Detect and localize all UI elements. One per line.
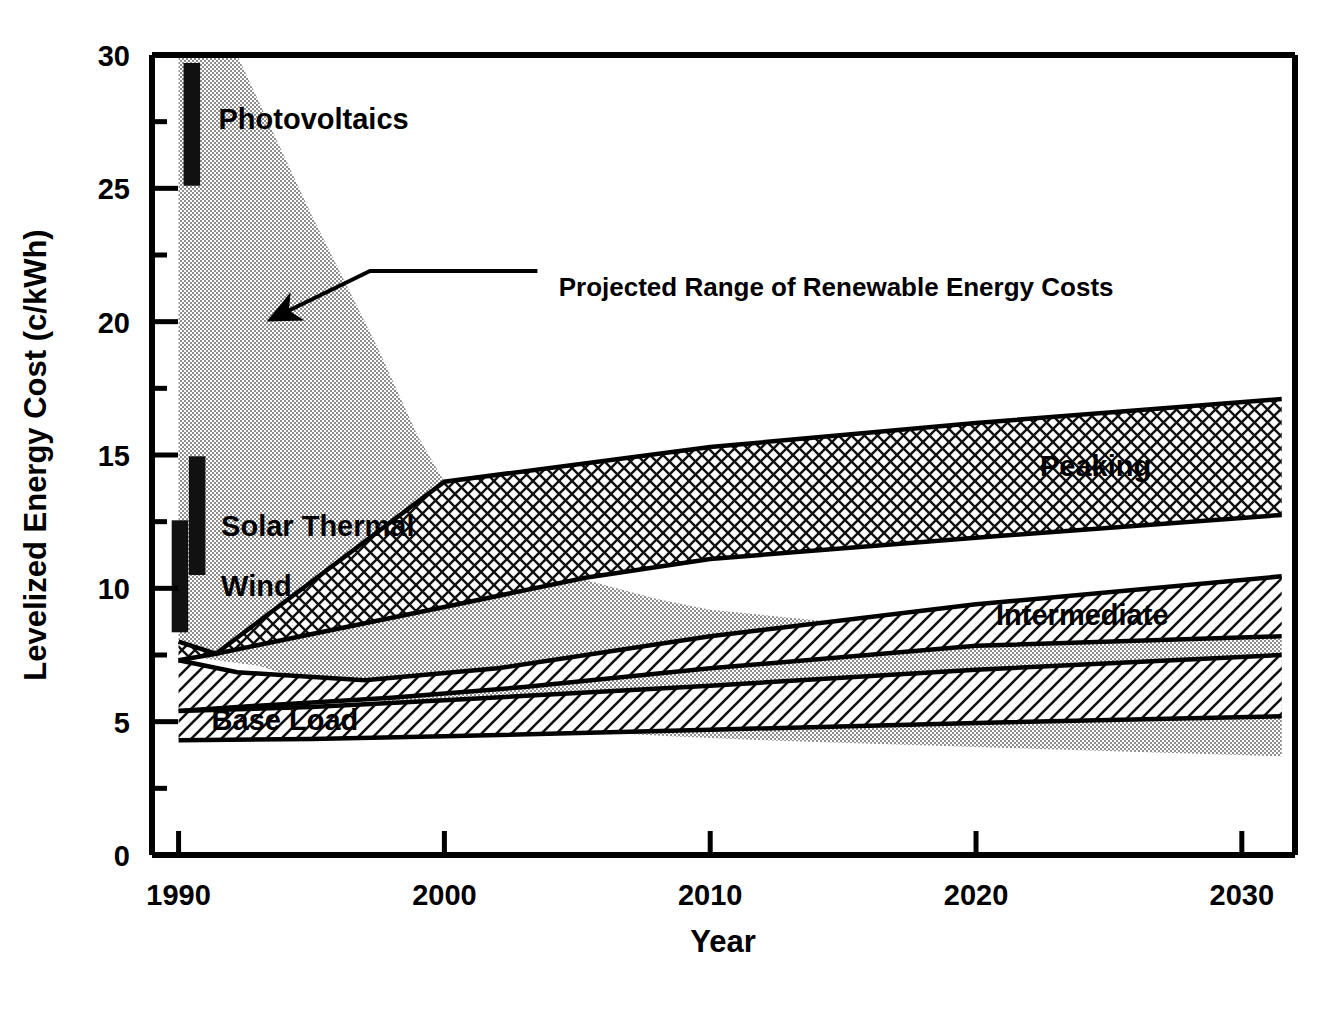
series-label-base-load: Base Load [212, 704, 359, 736]
series-label-wind: Wind [221, 570, 292, 602]
solar-thermal-bar [189, 456, 206, 575]
series-label-intermediate: Intermediate [996, 599, 1168, 631]
y-tick-label: 10 [98, 573, 130, 605]
y-tick-label: 20 [98, 307, 130, 339]
y-tick-label: 30 [98, 40, 130, 72]
renewable-energy-cost-chart: 051015202530 19902000201020202030 Photov… [0, 0, 1332, 1010]
y-tick-label: 5 [114, 707, 130, 739]
photovoltaics-bar [184, 63, 201, 186]
x-tick-label: 2000 [412, 879, 477, 911]
x-tick-label: 2030 [1210, 879, 1275, 911]
series-label-solar-thermal: Solar Thermal [221, 510, 414, 542]
annotation-label: Projected Range of Renewable Energy Cost… [559, 272, 1114, 302]
x-axis-tick-labels: 19902000201020202030 [146, 879, 1274, 911]
y-tick-label: 25 [98, 173, 130, 205]
x-tick-label: 1990 [146, 879, 211, 911]
x-axis-title: Year [690, 924, 756, 959]
wind-bar [172, 520, 189, 632]
y-tick-label: 15 [98, 440, 130, 472]
y-axis-tick-labels: 051015202530 [98, 40, 130, 872]
figure-container: 051015202530 19902000201020202030 Photov… [0, 0, 1332, 1010]
series-label-peaking: Peaking [1040, 450, 1151, 482]
x-tick-label: 2020 [944, 879, 1009, 911]
y-tick-label: 0 [114, 840, 130, 872]
x-tick-label: 2010 [678, 879, 743, 911]
series-label-photovoltaics: Photovoltaics [219, 103, 409, 135]
y-axis-title: Levelized Energy Cost (c/kWh) [18, 229, 53, 680]
